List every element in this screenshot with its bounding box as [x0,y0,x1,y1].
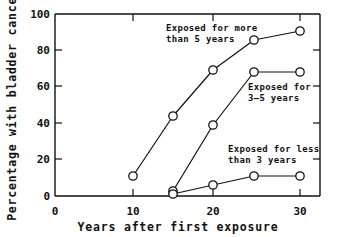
x-tick-label-20: 20 [206,205,219,218]
data-point [169,190,177,198]
annotation-less-than-3-years-line2: than 3 years [228,155,297,165]
x-tick-label-30: 30 [293,205,306,218]
y-axis-title: Percentage with bladder cancer [5,0,19,221]
data-point [296,27,304,35]
data-point [250,68,258,76]
y-tick-label-40: 40 [37,117,50,130]
y-tick-label-20: 20 [37,153,50,166]
bladder-cancer-line-chart: 100 80 60 40 20 0 0 10 20 30 Years after… [0,0,337,237]
annotation-more-than-5-years: Exposed for more than 5 years [166,23,258,44]
annotation-3-to-5-years-line2: 3–5 years [248,93,299,103]
data-point [129,172,137,180]
x-axis-title: Years after first exposure [78,220,279,234]
annotation-less-than-3-years-line1: Exposed for less [228,144,320,154]
annotation-3-to-5-years: Exposed for 3–5 years [248,82,311,103]
data-point [250,172,258,180]
x-tick-label-10: 10 [126,205,139,218]
data-point [209,181,217,189]
annotation-more-than-5-years-line2: than 5 years [166,34,235,44]
y-tick-label-100: 100 [30,8,50,21]
y-axis-ticks [55,50,320,159]
data-point [209,66,217,74]
data-point [209,121,217,129]
chart-container: 100 80 60 40 20 0 0 10 20 30 Years after… [0,0,337,237]
annotation-3-to-5-years-line1: Exposed for [248,82,311,92]
data-point [250,36,258,44]
data-point [169,112,177,120]
y-tick-label-0: 0 [43,190,50,203]
series-less-than-3-years-line [173,176,300,194]
y-tick-label-80: 80 [37,44,50,57]
annotation-more-than-5-years-line1: Exposed for more [166,23,258,33]
annotation-less-than-3-years: Exposed for less than 3 years [228,144,320,165]
data-point [296,172,304,180]
y-tick-label-60: 60 [37,80,50,93]
x-tick-label-0: 0 [52,205,59,218]
data-point [296,68,304,76]
series-less-than-3-years [169,172,304,198]
